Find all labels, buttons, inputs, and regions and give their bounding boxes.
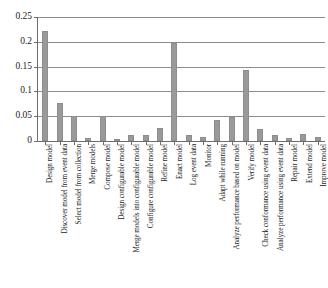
x-label-slot: Configure configurable model [138,144,152,288]
bar[interactable] [243,70,249,141]
bar[interactable] [171,43,177,141]
bar[interactable] [57,103,63,141]
bar-slot [110,17,124,141]
x-label-slot: Repair model [282,144,296,288]
bar-slot [153,17,167,141]
bar-slot [181,17,195,141]
bars-container [38,17,325,141]
x-label-slot: Merge models [80,144,94,288]
bar[interactable] [300,134,306,141]
bar[interactable] [257,129,263,141]
bar[interactable] [100,116,106,141]
bar-slot [38,17,52,141]
x-label-slot: Check conformance using event data [253,144,267,288]
bar-slot [224,17,238,141]
x-label-slot: Verify model [239,144,253,288]
bar-slot [138,17,152,141]
x-label-slot: Improve model [311,144,325,288]
bar-slot [196,17,210,141]
bar-slot [253,17,267,141]
y-axis-tick-label: 0.25 [2,12,32,22]
x-label-slot: Select model from collection [66,144,80,288]
x-axis-labels: Design modelDiscover model from event da… [37,144,325,288]
plot-area [37,17,325,142]
bar-slot [67,17,81,141]
x-axis-category-label: Improve model [321,144,328,187]
bar-slot [95,17,109,141]
bar[interactable] [42,31,48,141]
bar-slot [311,17,325,141]
x-label-slot: Discover model from event data [51,144,65,288]
y-axis-tick-label: 0.15 [2,62,32,72]
x-label-slot: Design configurable model [109,144,123,288]
y-axis-tick-label: 0.1 [2,87,32,97]
y-axis-tick-label: 0.05 [2,111,32,121]
bar-slot [282,17,296,141]
x-label-slot: Analyze performance using event data [268,144,282,288]
x-label-slot: Design model [37,144,51,288]
x-label-slot: Analyze performance based on model [224,144,238,288]
bar[interactable] [229,117,235,141]
x-label-slot: Monitor [195,144,209,288]
x-label-slot: Compose model [95,144,109,288]
x-label-slot: Enact model [167,144,181,288]
x-label-slot: Merge models into configurable model [123,144,137,288]
x-label-slot: Adapt while running [210,144,224,288]
bar-slot [268,17,282,141]
bar[interactable] [214,120,220,141]
bar-chart: 00.050.10.150.20.25 Design modelDiscover… [0,0,328,288]
bar[interactable] [71,116,77,141]
y-axis-tick-label: 0.2 [2,37,32,47]
gridline [38,141,325,142]
bar-slot [52,17,66,141]
bar-slot [124,17,138,141]
bar-slot [210,17,224,141]
y-axis-tick-mark [34,141,38,142]
x-label-slot: Extend model [296,144,310,288]
bar-slot [167,17,181,141]
bar-slot [296,17,310,141]
x-label-slot: Log event data [181,144,195,288]
bar-slot [81,17,95,141]
bar-slot [239,17,253,141]
y-axis-tick-label: 0 [2,136,32,146]
y-axis-labels: 00.050.10.150.20.25 [2,0,32,288]
bar[interactable] [157,128,163,141]
x-label-slot: Refine model [152,144,166,288]
